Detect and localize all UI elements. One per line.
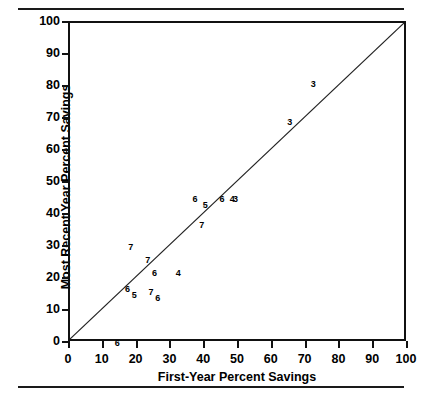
scatter-point-marker: 6 [115,339,120,348]
scatter-point-marker: 6 [125,284,130,293]
y-tick-label: 50 [14,174,60,188]
bottom-divider-rule [18,386,404,388]
y-tick-label: 30 [14,238,60,252]
x-tick-mark [203,341,205,348]
scatter-point-marker: 7 [199,220,204,229]
x-tick-mark [406,341,408,348]
scatter-point-marker: 7 [145,255,150,264]
y-tick-label: 70 [14,110,60,124]
x-tick-mark [305,341,307,348]
x-tick-mark [68,341,70,348]
top-divider-rule [18,8,404,10]
scatter-point-marker: 5 [132,291,137,300]
y-tick-label: 40 [14,206,60,220]
y-tick-label: 90 [14,46,60,60]
identity-reference-line [70,23,404,339]
plot-area: 66576776476564333 [68,21,406,341]
y-tick-label: 20 [14,270,60,284]
scatter-point-marker: 7 [149,287,154,296]
y-tick-label: 100 [14,14,60,28]
scatter-point-marker: 6 [220,195,225,204]
scatter-point-marker: 6 [152,268,157,277]
scatter-point-marker: 3 [233,195,238,204]
scatter-point-marker: 4 [176,268,181,277]
y-tick-label: 60 [14,142,60,156]
scatter-point-marker: 6 [193,195,198,204]
x-axis-title: First-Year Percent Savings [68,370,406,384]
x-tick-mark [102,341,104,348]
x-tick-mark [372,341,374,348]
x-tick-mark [271,341,273,348]
x-tick-mark [338,341,340,348]
y-tick-label: 10 [14,302,60,316]
x-tick-mark [237,341,239,348]
scatter-point-marker: 5 [203,201,208,210]
y-tick-label: 80 [14,78,60,92]
scatter-point-marker: 6 [155,294,160,303]
x-tick-label: 100 [386,352,422,366]
x-tick-mark [136,341,138,348]
y-tick-label: 0 [14,334,60,348]
scatter-point-marker: 3 [287,118,292,127]
scatter-point-marker: 7 [128,243,133,252]
scatter-point-marker: 3 [311,79,316,88]
x-tick-mark [169,341,171,348]
